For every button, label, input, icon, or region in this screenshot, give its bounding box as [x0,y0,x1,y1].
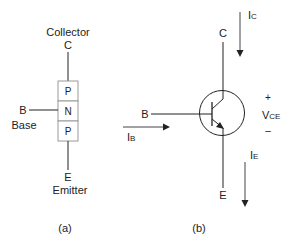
bjt-diagram: Collector C P N P B Base E Emitter (a) C… [0,0,290,246]
base-label: Base [11,119,36,131]
base-terminal-b: B [141,108,148,120]
collector-label: Collector [46,26,90,38]
ic-arrow-head [237,50,244,57]
vce-minus: – [265,125,271,136]
panel-a: Collector C P N P B Base E Emitter (a) [11,26,90,234]
layer-p-bottom-label: P [65,126,72,137]
ic-label: IC [248,9,257,21]
emitter-label: Emitter [53,184,88,196]
caption-b: (b) [192,222,205,234]
base-terminal-a: B [19,104,26,116]
ie-sub: E [253,152,258,161]
caption-a: (a) [58,222,71,234]
vce-sub: CE [269,112,280,121]
vce-label: VCE [262,109,280,121]
ib-arrow-head [163,124,170,131]
layer-n-label: N [64,106,71,117]
collector-diagonal [212,99,223,109]
layer-p-top-label: P [65,86,72,97]
ib-sub: B [130,134,135,143]
emitter-terminal-b: E [219,189,226,201]
collector-terminal-a: C [64,39,72,51]
ib-label: IB [127,131,135,143]
vce-plus: + [265,92,271,103]
transistor-envelope [200,91,245,136]
panel-b: C IC B E IB + VCE – IE (b) [123,9,280,234]
ie-label: IE [250,149,258,161]
ic-sub: C [251,12,257,21]
collector-terminal-b: C [219,27,227,39]
ie-arrow-head [242,200,249,207]
emitter-terminal-a: E [64,171,71,183]
